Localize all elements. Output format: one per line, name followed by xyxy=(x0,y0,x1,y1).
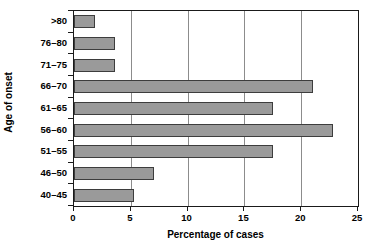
bar xyxy=(74,15,95,28)
bar-row xyxy=(74,33,358,55)
bar-row xyxy=(74,11,358,33)
bar-row xyxy=(74,163,358,185)
y-axis-tick-label: 56–60 xyxy=(16,118,71,140)
y-axis-tick-label: 71–75 xyxy=(16,53,71,75)
bar-row xyxy=(74,119,358,141)
x-axis-tick-label: 5 xyxy=(127,212,132,223)
bar xyxy=(74,102,273,115)
bar-row xyxy=(74,184,358,206)
y-axis-tick-label: 76–80 xyxy=(16,32,71,54)
bar-row xyxy=(74,141,358,163)
x-axis-tick-mark xyxy=(187,206,188,211)
x-axis-tick-mark xyxy=(300,206,301,211)
y-axis-tick-label: 51–55 xyxy=(16,140,71,162)
y-axis-tick-label: >80 xyxy=(16,10,71,32)
x-axis-tick-label: 0 xyxy=(70,212,75,223)
bar-chart: Age of onset >8076–8071–7566–7061–6556–6… xyxy=(0,0,375,249)
bar-series xyxy=(74,11,358,206)
y-axis-tick-label: 66–70 xyxy=(16,75,71,97)
x-axis-tick-mark xyxy=(73,206,74,211)
y-axis-tick-labels: >8076–8071–7566–7061–6556–6051–5546–5040… xyxy=(16,10,71,205)
bar-row xyxy=(74,76,358,98)
x-axis-tick-labels: 0510152025 xyxy=(73,212,358,225)
y-axis-tick-label: 46–50 xyxy=(16,162,71,184)
bar xyxy=(74,124,333,137)
bar-row xyxy=(74,98,358,120)
x-axis-tick-label: 20 xyxy=(295,212,306,223)
bar xyxy=(74,189,134,202)
x-axis-title: Percentage of cases xyxy=(73,229,358,240)
bar xyxy=(74,145,273,158)
y-axis-title: Age of onset xyxy=(0,0,16,205)
bar xyxy=(74,167,154,180)
x-axis-tick-mark xyxy=(243,206,244,211)
x-axis-tick-label: 25 xyxy=(352,212,363,223)
bar xyxy=(74,37,115,50)
bar xyxy=(74,59,115,72)
y-axis-title-text: Age of onset xyxy=(3,72,14,133)
y-axis-tick-label: 40–45 xyxy=(16,183,71,205)
y-axis-tick-label: 61–65 xyxy=(16,97,71,119)
bar-row xyxy=(74,54,358,76)
x-axis-tick-marks xyxy=(73,206,358,211)
x-axis-tick-mark xyxy=(357,206,358,211)
x-axis-tick-label: 10 xyxy=(181,212,192,223)
x-axis-tick-mark xyxy=(130,206,131,211)
plot-area xyxy=(73,10,359,207)
x-axis-tick-label: 15 xyxy=(238,212,249,223)
bar xyxy=(74,80,313,93)
